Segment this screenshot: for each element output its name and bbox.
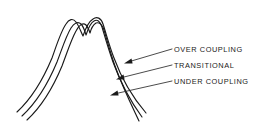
label-under-coupling: UNDER COUPLING — [174, 78, 249, 85]
arrow-head-over-coupling — [124, 59, 133, 64]
callout-leader-over-coupling — [124, 49, 172, 63]
label-over-coupling: OVER COUPLING — [174, 46, 243, 53]
label-transitional: TRANSITIONAL — [174, 62, 234, 69]
curve-over-coupling — [17, 18, 146, 113]
coupling-response-figure: OVER COUPLING TRANSITIONAL UNDER COUPLIN… — [0, 0, 272, 131]
curve-under-coupling — [27, 23, 139, 121]
arrow-head-under-coupling — [110, 91, 119, 96]
callout-leader-under-coupling — [110, 81, 172, 95]
callout-leader-transitional — [116, 65, 172, 79]
arrow-head-transitional — [116, 75, 125, 80]
